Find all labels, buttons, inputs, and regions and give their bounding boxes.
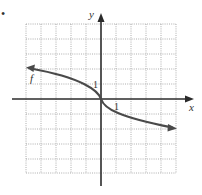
curve-right-arrow-icon (168, 124, 178, 132)
graph-canvas: • x y 1 1 f (0, 0, 202, 195)
x-tick-label-1: 1 (114, 101, 119, 112)
y-tick-label-1: 1 (93, 79, 98, 90)
y-axis-arrow-icon (98, 13, 105, 22)
function-label-f: f (30, 72, 35, 84)
problem-marker: • (1, 7, 5, 21)
x-axis-label: x (188, 101, 194, 113)
curve-left-arrow-icon (26, 65, 35, 73)
y-axis-label: y (88, 8, 94, 20)
